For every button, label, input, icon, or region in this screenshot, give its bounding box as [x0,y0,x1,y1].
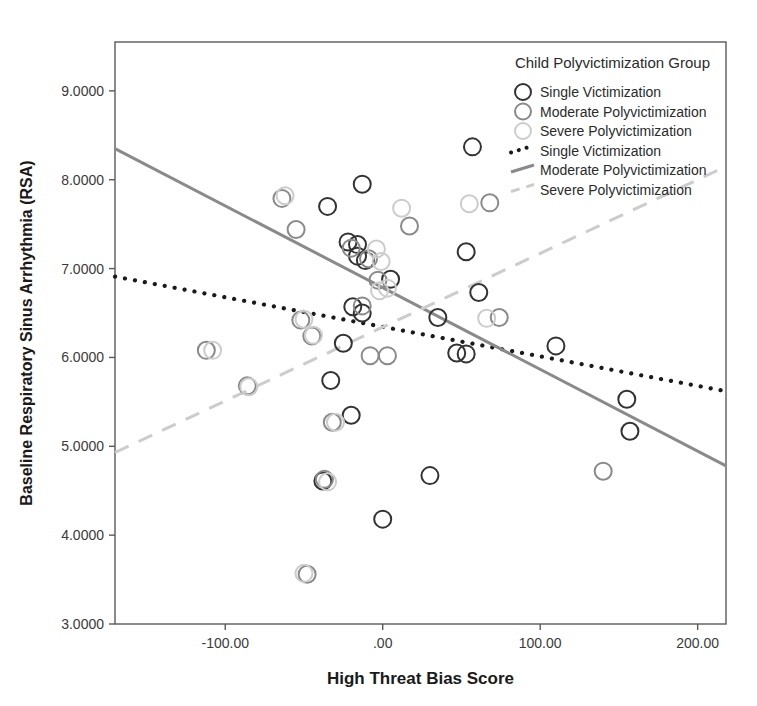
data-point-marker [343,407,360,424]
x-axis-tick-label: 200.00 [676,635,719,651]
data-point-marker [470,284,487,301]
y-axis-tick-label: 5.0000 [61,438,104,454]
y-axis-tick-label: 9.0000 [61,83,104,99]
data-point-marker [354,176,371,193]
legend-marker-circle [515,104,531,120]
y-axis-tick-label: 3.0000 [61,616,104,632]
legend-marker-label: Moderate Polyvictimization [540,104,707,120]
scatter-plot-figure: 3.00004.00005.00006.00007.00008.00009.00… [0,0,757,706]
data-point-marker [458,243,475,260]
data-point-marker [621,423,638,440]
legend: Child Polyvictimization GroupSingle Vict… [511,54,710,198]
y-axis-tick-label: 4.0000 [61,527,104,543]
data-point-marker [322,372,339,389]
legend-marker-label: Single Victimization [540,84,661,100]
trend-line-dashed [115,166,726,452]
data-point-marker [335,335,352,352]
legend-marker-label: Severe Polyvictimization [540,123,692,139]
data-point-marker [379,347,396,364]
data-point-marker [618,391,635,408]
data-point-marker [595,463,612,480]
legend-line-swatch-dotted [511,146,534,153]
y-axis-tick-label: 7.0000 [61,261,104,277]
data-point-marker [421,467,438,484]
plot-canvas: 3.00004.00005.00006.00007.00008.00009.00… [0,0,757,706]
x-axis-title: High Threat Bias Score [327,669,514,688]
data-point-marker [547,337,564,354]
data-point-marker [319,198,336,215]
legend-title: Child Polyvictimization Group [515,54,710,71]
data-point-marker [374,511,391,528]
data-point-marker [288,221,305,238]
data-point-marker [478,310,495,327]
legend-line-label: Severe Polyvictimization [540,182,692,198]
y-axis-title: Baseline Respiratory Sinus Arrhythmia (R… [18,160,35,505]
legend-marker-circle [515,84,531,100]
x-axis-tick-label: -100.00 [201,635,249,651]
x-axis-tick-label: 100.00 [519,635,562,651]
data-point-marker [349,236,366,253]
legend-line-label: Moderate Polyvictimization [540,162,707,178]
legend-line-label: Single Victimization [540,143,661,159]
data-point-marker [393,200,410,217]
legend-marker-circle [515,123,531,139]
data-point-marker [481,194,498,211]
data-point-marker [401,217,418,234]
data-point-marker [461,195,478,212]
x-axis-tick-label: .00 [373,635,393,651]
data-point-marker [362,347,379,364]
y-axis-tick-label: 6.0000 [61,349,104,365]
legend-line-swatch-dashed [511,185,534,192]
data-point-marker [464,138,481,155]
legend-line-swatch-solid [511,165,534,172]
trend-line-dotted [115,277,726,392]
y-axis-tick-label: 8.0000 [61,172,104,188]
